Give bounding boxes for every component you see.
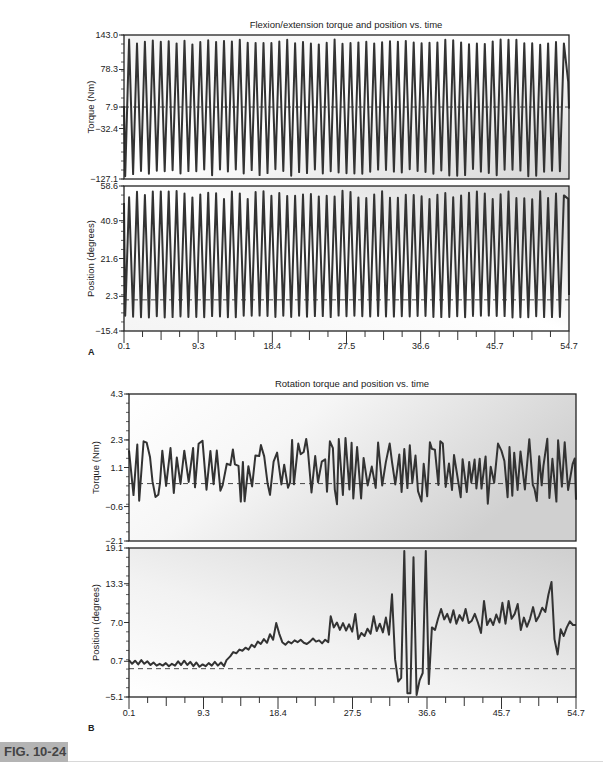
plot-background [129,548,576,697]
y-tick-label: −15.4 [95,326,118,336]
panel-a-letter: A [88,347,95,357]
x-tick-label: 45.7 [493,708,511,718]
panel-a: Flexion/extension torque and position vs… [85,19,578,357]
panel-b-letter: B [88,723,95,733]
x-tick-label: 27.5 [344,708,362,718]
x-tick-label: 36.6 [418,708,436,718]
x-tick-label: 9.3 [197,708,210,718]
x-tick-label: 0.1 [118,341,131,351]
x-tick-label: 18.4 [264,341,282,351]
panel-a-torque-plot: 143.078.37.9−32.4−127.1Torque (Nm) [85,30,569,184]
y-tick-label: 58.6 [100,181,118,191]
y-tick-label: 13.3 [105,579,123,589]
y-tick-label: 1.1 [110,463,123,473]
figure: Flexion/extension torque and position vs… [0,0,603,771]
y-tick-label: 143.0 [95,30,118,40]
y-tick-label: −32.4 [95,124,118,134]
x-tick-label: 54.7 [560,341,578,351]
panel-a-title: Flexion/extension torque and position vs… [250,19,443,30]
x-tick-label: 27.5 [338,341,356,351]
figure-divider [68,761,603,762]
y-axis-label: Torque (Nm) [85,81,96,134]
panel-b: Rotation torque and position vs. time 4.… [88,378,585,733]
figure-label: FIG. 10-24 [0,742,68,762]
y-tick-label: 2.3 [110,435,123,445]
panel-b-position-plot: 19.113.37.00.7−5.1Position (degrees)0.19… [90,543,585,718]
panel-b-torque-plot: 4.32.31.1−0.6−2.1Torque (Nm) [90,389,576,546]
x-tick-label: 45.7 [486,341,504,351]
y-axis-label: Torque (Nm) [90,441,101,494]
y-tick-label: 19.1 [105,543,123,553]
panel-b-title: Rotation torque and position vs. time [275,378,429,389]
x-tick-label: 9.3 [192,341,205,351]
y-tick-label: −0.6 [105,502,123,512]
x-tick-label: 18.4 [269,708,287,718]
y-tick-label: 40.9 [100,216,118,226]
y-tick-label: 7.9 [105,102,118,112]
x-tick-label: 36.6 [412,341,430,351]
y-tick-label: 78.3 [100,64,118,74]
y-tick-label: −5.1 [105,692,123,702]
y-tick-label: 4.3 [110,389,123,399]
y-axis-label: Position (degrees) [90,584,101,661]
panel-a-position-plot: 58.640.921.62.3−15.4Position (degrees)0.… [85,181,578,351]
y-tick-label: 21.6 [100,254,118,264]
y-tick-label: 7.0 [110,618,123,628]
x-tick-label: 54.7 [567,708,585,718]
y-axis-label: Position (degrees) [85,220,96,297]
y-tick-label: 2.3 [105,291,118,301]
x-tick-label: 0.1 [123,708,136,718]
y-tick-label: 0.7 [110,656,123,666]
